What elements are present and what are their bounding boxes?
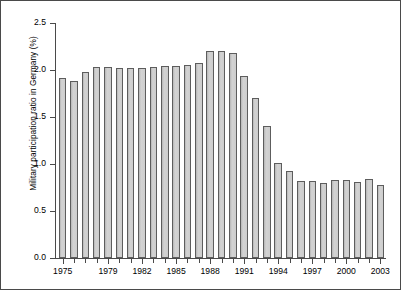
bar [286,171,293,258]
x-tick-mark [119,259,120,263]
bar [377,185,384,258]
bar [331,180,338,258]
x-tick-mark [256,259,257,263]
bar-series [56,23,386,258]
x-tick-mark [74,259,75,263]
bar [184,65,191,258]
x-tick-mark [301,259,302,263]
bar [116,68,123,258]
x-tick-mark [222,259,223,263]
bar [274,163,281,258]
y-tick-label: 1.0 [1,159,46,168]
bar [93,67,100,258]
bar [229,53,236,258]
y-tick-label: 0.0 [1,253,46,262]
bar [172,66,179,258]
x-tick-mark [290,259,291,263]
y-tick-mark [50,23,55,24]
bar [82,72,89,258]
y-tick-label: 2.5 [1,18,46,27]
bar [320,183,327,258]
x-tick-mark [369,259,370,263]
x-tick-mark [187,259,188,263]
bar [104,67,111,258]
x-tick-label: 2003 [360,266,400,276]
bar [70,81,77,258]
bar [218,51,225,258]
x-tick-mark [210,259,211,264]
bar [127,68,134,258]
bar [206,51,213,258]
x-tick-mark [346,259,347,264]
bar [195,63,202,258]
bar [365,179,372,258]
bar [354,182,361,258]
bar [297,181,304,258]
x-tick-label: 1975 [43,266,83,276]
x-tick-mark [85,259,86,263]
y-tick-label: 1.5 [1,112,46,121]
x-tick-mark [131,259,132,263]
x-tick-mark [199,259,200,263]
bar [150,67,157,258]
x-tick-mark [380,259,381,264]
bar [309,181,316,258]
bar [263,126,270,258]
bar [240,76,247,258]
x-tick-mark [312,259,313,264]
x-tick-mark [233,259,234,263]
y-tick-label: 0.5 [1,206,46,215]
x-tick-mark [244,259,245,264]
bar [59,78,66,258]
x-tick-mark [153,259,154,263]
y-tick-mark [50,258,55,259]
x-tick-mark [324,259,325,263]
x-tick-mark [267,259,268,263]
bar [343,180,350,258]
bar [138,68,145,258]
y-tick-mark [50,164,55,165]
y-tick-mark [50,70,55,71]
y-tick-mark [50,211,55,212]
y-tick-label: 2.0 [1,65,46,74]
x-tick-mark [63,259,64,264]
bar [252,98,259,258]
bar [161,66,168,258]
x-tick-mark [358,259,359,263]
x-tick-mark [142,259,143,264]
y-tick-mark [50,117,55,118]
x-tick-mark [108,259,109,264]
x-tick-mark [165,259,166,263]
chart-frame: Military participation ratio in Germany … [0,0,401,290]
x-axis-line [55,258,386,259]
x-tick-mark [97,259,98,263]
x-tick-mark [278,259,279,264]
x-tick-mark [176,259,177,264]
x-tick-mark [335,259,336,263]
